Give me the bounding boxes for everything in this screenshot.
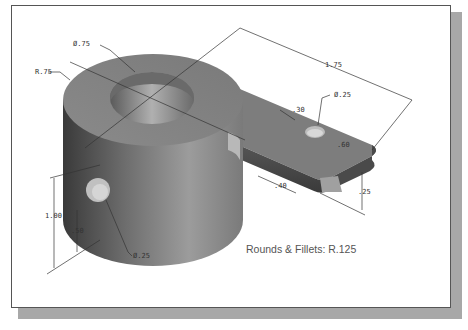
dim-arm-hole-offset: .30 xyxy=(292,106,305,114)
dim-boss-radius: R.75 xyxy=(35,68,52,76)
dim-arm-hole-distance: .40 xyxy=(274,182,287,190)
dim-arm-thickness: .25 xyxy=(358,188,371,196)
dim-side-hole-height: .50 xyxy=(71,227,84,235)
dim-small-hole-diameter: Ø.25 xyxy=(334,91,351,99)
dim-bore-diameter: Ø.75 xyxy=(73,40,90,48)
dim-overall-length: 1.75 xyxy=(325,61,342,69)
part-drawing: Ø.75 R.75 1.75 Ø.25 .30 .60 .40 .25 1.00… xyxy=(0,0,468,330)
dim-overall-height: 1.00 xyxy=(45,212,62,220)
dim-side-hole-diameter: Ø.25 xyxy=(133,252,150,260)
dim-arm-width: .60 xyxy=(337,141,350,149)
rounds-fillets-note: Rounds & Fillets: R.125 xyxy=(246,243,356,255)
cylinder-boss xyxy=(63,54,243,266)
